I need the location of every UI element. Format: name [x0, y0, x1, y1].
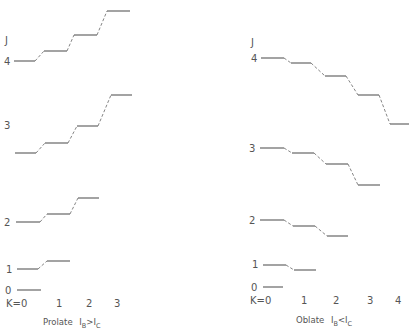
- energy-level-diagram: J 4 3 2: [0, 0, 409, 333]
- j-label-3: 3: [249, 143, 255, 154]
- k-label-2: 2: [333, 295, 339, 306]
- k-label-0: K=0: [250, 295, 271, 306]
- j-label-1: 1: [252, 259, 258, 270]
- prolate-j2-levels: [16, 198, 99, 222]
- k-label-3: 3: [114, 298, 120, 309]
- j-axis-label: J: [250, 37, 254, 48]
- j-label-4: 4: [4, 56, 10, 67]
- oblate-j1-levels: [263, 265, 316, 270]
- prolate-j3-levels: [15, 95, 132, 153]
- j-axis-label: J: [4, 35, 8, 46]
- k-label-1: 1: [301, 295, 307, 306]
- oblate-j3-levels: [260, 148, 380, 185]
- j-label-3: 3: [4, 120, 10, 131]
- j-label-1: 1: [6, 264, 12, 275]
- prolate-caption: Prolate IB>IC: [43, 317, 101, 330]
- j-label-2: 2: [249, 215, 255, 226]
- k-label-4: 4: [395, 295, 401, 306]
- k-label-3: 3: [367, 295, 373, 306]
- j-label-0: 0: [251, 282, 257, 293]
- k-label-0: K=0: [6, 298, 27, 309]
- oblate-j4-levels: [261, 58, 409, 124]
- k-label-1: 1: [56, 298, 62, 309]
- prolate-j1-levels: [17, 261, 70, 269]
- j-label-2: 2: [4, 217, 10, 228]
- prolate-j4-levels: [14, 11, 130, 61]
- oblate-caption: Oblate IB<IC: [296, 315, 353, 328]
- oblate-panel: J 4 3 2: [249, 37, 409, 328]
- prolate-panel: J 4 3 2: [4, 11, 132, 330]
- oblate-j2-levels: [260, 220, 348, 236]
- j-label-0: 0: [5, 285, 11, 296]
- k-label-2: 2: [86, 298, 92, 309]
- j-label-4: 4: [251, 53, 257, 64]
